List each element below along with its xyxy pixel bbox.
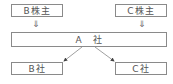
arrow-a-to-c <box>95 47 114 61</box>
arrow-a-to-b <box>64 47 82 61</box>
node-b-company: B社 <box>11 62 63 75</box>
node-c-company: C社 <box>115 62 167 75</box>
node-c-company-label: C社 <box>132 62 149 75</box>
node-b-company-label: B社 <box>28 62 45 75</box>
